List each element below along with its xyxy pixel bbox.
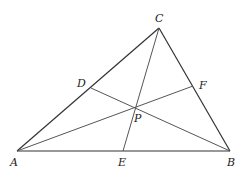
triangle-diagram: C A B E P D F	[0, 0, 246, 176]
label-a: A	[9, 156, 18, 169]
label-p: P	[133, 112, 142, 125]
cevian-ce	[123, 28, 159, 151]
label-e: E	[117, 156, 126, 169]
side-ca	[17, 28, 159, 151]
label-b: B	[226, 156, 235, 169]
label-d: D	[76, 77, 86, 90]
label-f: F	[198, 79, 207, 92]
side-bc	[159, 28, 230, 151]
diagram-canvas: C A B E P D F	[0, 0, 246, 176]
cevian-af	[17, 86, 193, 151]
cevian-bd	[91, 88, 230, 151]
label-c: C	[155, 12, 164, 25]
